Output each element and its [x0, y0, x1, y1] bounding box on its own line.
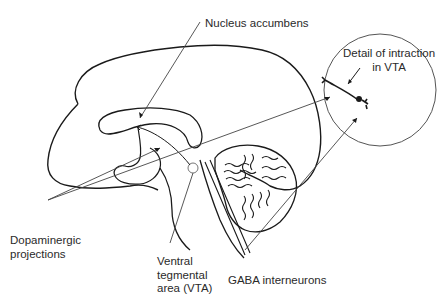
cerebellum-folia [224, 154, 286, 220]
cerebellum-outline [215, 145, 297, 232]
corpus-callosum [99, 108, 202, 148]
accumbens-neuron [137, 125, 190, 165]
thalamus-region [114, 128, 160, 184]
neuron-synapse-detail [322, 77, 368, 109]
arrowheads [139, 97, 357, 152]
label-dopaminergic-projections: Dopaminergic projections [10, 234, 81, 261]
synapse-dot [356, 96, 362, 102]
medulla-lines [205, 160, 250, 255]
label-vta: Ventral tegmental area (VTA) [157, 255, 212, 296]
label-nucleus-accumbens: Nucleus accumbens [205, 17, 309, 31]
label-gaba-interneurons: GABA interneurons [228, 274, 326, 288]
cerebrum-outline [48, 45, 321, 190]
label-detail-vta: Detail of intraction in VTA [343, 47, 435, 74]
